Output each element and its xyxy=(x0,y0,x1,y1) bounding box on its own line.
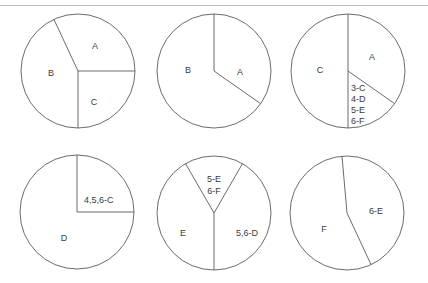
chart-5-top-line-1: 5-E xyxy=(207,174,221,184)
chart-4-label-d: D xyxy=(61,233,68,243)
chart-3-wedge-line-2: 4-D xyxy=(351,94,366,104)
chart-1-label-b: B xyxy=(48,68,54,78)
chart-3-label-c: C xyxy=(317,65,324,75)
chart-3-label-a: A xyxy=(369,52,375,62)
chart-1-label-a: A xyxy=(92,41,98,51)
chart-3: A C 3-C 4-D 5-E 6-F xyxy=(291,14,405,128)
chart-5-label-d: 5,6-D xyxy=(236,228,259,238)
chart-2-label-b: B xyxy=(185,65,191,75)
chart-2: A B xyxy=(157,14,271,128)
chart-5: 5-E 6-F E 5,6-D xyxy=(157,156,271,270)
chart-5-label-e: E xyxy=(180,228,186,238)
chart-6-label-e: 6-E xyxy=(369,206,383,216)
chart-6: 6-E F xyxy=(290,156,404,270)
chart-1: A B C xyxy=(21,14,135,128)
chart-4: 4,5,6-C D xyxy=(20,155,134,269)
chart-2-label-a: A xyxy=(237,67,243,77)
chart-3-wedge-line-1: 3-C xyxy=(351,83,366,93)
chart-5-top-line-2: 6-F xyxy=(207,186,221,196)
chart-4-label-quarter: 4,5,6-C xyxy=(84,195,114,205)
pie-chart-canvas: A B C A B A C 3-C 4-D 5-E 6-F xyxy=(0,0,428,283)
pie-chart-figure: A B C A B A C 3-C 4-D 5-E 6-F xyxy=(0,0,428,283)
chart-3-wedge-line-3: 5-E xyxy=(351,105,365,115)
chart-6-label-f: F xyxy=(321,224,327,234)
chart-1-label-c: C xyxy=(91,97,98,107)
chart-3-wedge-line-4: 6-F xyxy=(351,116,365,126)
